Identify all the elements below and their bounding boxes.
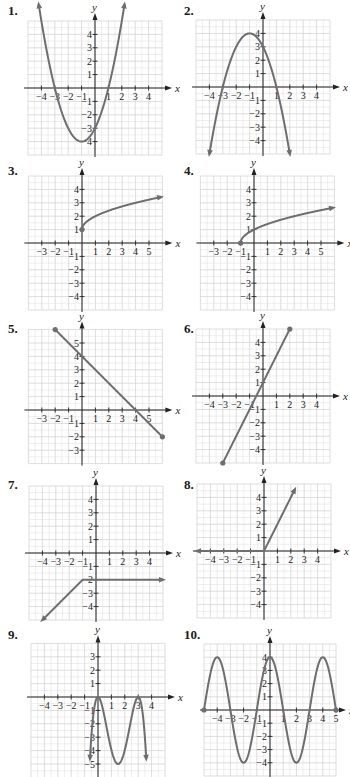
x-tick-label: −4: [36, 91, 47, 102]
y-tick-label: −3: [249, 122, 260, 133]
y-tick-label: 2: [74, 378, 79, 389]
y-tick-label: −3: [249, 431, 260, 442]
y-tick-label: −3: [68, 445, 79, 456]
y-tick-label: 2: [255, 364, 260, 375]
x-axis-arrow-icon: [333, 394, 340, 399]
y-tick-label: 3: [255, 350, 260, 361]
exercise-number: 5.: [8, 321, 18, 336]
x-tick-label: 4: [320, 713, 325, 724]
y-axis-label: y: [78, 310, 84, 322]
x-tick-label: 2: [278, 246, 283, 257]
x-tick-label: −2: [50, 413, 61, 424]
x-tick-label: −4: [204, 399, 215, 410]
y-tick-label: 2: [88, 521, 93, 532]
x-tick-label: −2: [50, 246, 61, 257]
x-tick-label: 4: [315, 554, 320, 565]
y-tick-label: 3: [256, 505, 261, 516]
y-tick-label: 3: [74, 364, 79, 375]
y-axis-label: y: [250, 156, 256, 168]
graph-10: 10.xy−4−3−2−112345−4−3−2−11234: [184, 624, 350, 777]
endpoint-dot-icon: [220, 460, 225, 465]
exercise-number: 6.: [184, 321, 194, 336]
x-tick-label: 2: [287, 90, 292, 101]
x-tick-label: 1: [275, 554, 280, 565]
endpoint-dot-icon: [287, 326, 292, 331]
exercise-number: 10.: [184, 627, 200, 642]
x-tick-label: 3: [292, 246, 297, 257]
x-tick-label: 5: [334, 713, 339, 724]
endpoint-dot-icon: [333, 707, 338, 712]
grid: [28, 330, 162, 464]
curve-arrow-icon: [286, 150, 292, 157]
y-tick-label: 2: [246, 211, 251, 222]
x-tick-label: 4: [133, 413, 138, 424]
y-tick-label: −1: [81, 96, 92, 107]
function-curve: [197, 489, 295, 551]
y-tick-label: 3: [74, 197, 79, 208]
y-tick-label: 4: [256, 492, 261, 503]
graph-7: 7.xy−4−3−2−11234−4−3−2−11234: [8, 466, 181, 622]
y-tick-label: −1: [250, 559, 261, 570]
x-tick-label: −2: [66, 700, 77, 711]
y-tick-label: −3: [250, 586, 261, 597]
x-tick-label: −2: [63, 91, 74, 102]
x-axis-arrow-icon: [165, 241, 172, 246]
exercise-number: 9.: [8, 627, 18, 642]
y-axis-label: y: [92, 466, 98, 478]
curve-arrow-icon: [291, 487, 297, 495]
y-axis-label: y: [260, 464, 266, 476]
x-tick-label: 1: [107, 556, 112, 567]
curve-arrow-icon: [159, 577, 166, 583]
y-tick-label: 1: [256, 532, 261, 543]
y-axis-arrow-icon: [96, 635, 101, 642]
x-tick-label: 2: [287, 399, 292, 410]
y-tick-label: −3: [256, 744, 267, 755]
x-axis-arrow-icon: [165, 408, 172, 413]
x-tick-label: 3: [134, 556, 139, 567]
y-tick-label: −2: [256, 731, 267, 742]
x-tick-label: 3: [302, 554, 307, 565]
x-tick-label: −2: [231, 399, 242, 410]
y-tick-label: −2: [81, 109, 92, 120]
y-tick-label: 4: [87, 29, 92, 40]
y-axis-label: y: [78, 156, 84, 168]
y-tick-label: −4: [249, 135, 260, 146]
y-axis-label: y: [266, 624, 272, 636]
y-tick-label: −3: [68, 278, 79, 289]
x-tick-label: 5: [319, 246, 324, 257]
y-tick-label: 4: [74, 184, 79, 195]
y-tick-label: 2: [87, 56, 92, 67]
y-tick-label: 3: [246, 197, 251, 208]
x-axis-arrow-icon: [165, 86, 172, 91]
x-axis-arrow-icon: [334, 549, 341, 554]
x-tick-label: −3: [218, 554, 229, 565]
y-tick-label: −1: [68, 251, 79, 262]
x-tick-label: 2: [122, 700, 127, 711]
x-axis-arrow-icon: [333, 85, 340, 90]
curve-arrow-icon: [329, 206, 336, 212]
y-axis-arrow-icon: [80, 168, 85, 175]
y-tick-label: −4: [240, 291, 251, 302]
y-tick-label: 1: [88, 534, 93, 545]
x-axis-label: x: [174, 237, 180, 249]
y-tick-label: 4: [246, 184, 251, 195]
y-tick-label: −1: [249, 95, 260, 106]
x-tick-label: 1: [274, 399, 279, 410]
x-tick-label: −4: [204, 90, 215, 101]
y-axis-label: y: [259, 309, 265, 321]
y-tick-label: 2: [90, 665, 95, 676]
x-tick-label: −3: [50, 556, 61, 567]
exercise-number: 1.: [8, 3, 18, 18]
graph-9: 9.xy−4−3−2−11234−5−4−3−2−1123: [8, 623, 183, 777]
y-axis-label: y: [94, 623, 100, 635]
y-tick-label: −2: [68, 264, 79, 275]
x-tick-label: 2: [294, 713, 299, 724]
x-axis-arrow-icon: [166, 551, 173, 556]
y-tick-label: 3: [255, 41, 260, 52]
y-tick-label: 1: [87, 69, 92, 80]
curve-arrow-icon: [121, 1, 127, 8]
curve-arrow-icon: [143, 755, 149, 762]
x-tick-label: −2: [238, 713, 249, 724]
y-tick-label: −4: [250, 599, 261, 610]
endpoint-dot-icon: [238, 240, 243, 245]
